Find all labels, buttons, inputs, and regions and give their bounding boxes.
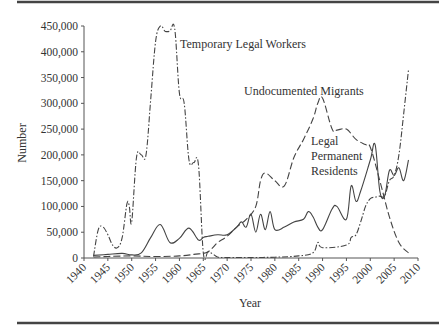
x-tick-label: 1985 [278, 261, 303, 286]
x-tick-label: 1995 [326, 261, 351, 286]
x-tick-label: 2000 [350, 261, 375, 286]
y-tick-label: 100,000 [41, 200, 79, 213]
y-tick-label: 150,000 [41, 175, 79, 188]
x-tick-label: 1955 [135, 261, 160, 286]
x-tick-label: 1945 [88, 261, 113, 286]
x-tick-label: 1990 [302, 261, 327, 286]
line-chart: 050,000100,000150,000200,000250,000300,0… [0, 0, 439, 327]
x-tick-label: 1980 [255, 261, 280, 286]
x-axis: 1940194519501955196019651970197519801985… [64, 258, 423, 286]
y-tick-label: 200,000 [41, 149, 79, 162]
x-tick-label: 1965 [183, 261, 208, 286]
annotation-lpr-line1: Legal [311, 134, 339, 148]
x-tick-label: 1950 [111, 261, 136, 286]
annotation-undocumented-migrants: Undocumented Migrants [244, 84, 364, 98]
x-tick-label: 1960 [159, 261, 184, 286]
annotation-temporary-legal-workers: Temporary Legal Workers [180, 37, 306, 51]
y-tick-label: 400,000 [41, 46, 79, 59]
y-tick-label: 250,000 [41, 123, 79, 136]
y-tick-label: 450,000 [41, 20, 79, 33]
annotation-lpr-line3: Residents [311, 164, 358, 178]
y-axis: 050,000100,000150,000200,000250,000300,0… [41, 20, 84, 264]
x-tick-label: 2005 [374, 261, 399, 286]
series-temporary-legal-workers [94, 24, 409, 259]
x-axis-label: Year [239, 296, 261, 310]
annotation-lpr-line2: Permanent [311, 149, 363, 163]
y-tick-label: 300,000 [41, 97, 79, 110]
y-tick-label: 350,000 [41, 72, 79, 85]
y-tick-label: 50,000 [46, 226, 78, 239]
x-tick-label: 1940 [64, 261, 89, 286]
y-axis-label: Number [15, 123, 29, 162]
x-tick-label: 1975 [231, 261, 256, 286]
x-tick-label: 2010 [398, 261, 423, 286]
series-undocumented-migrants [94, 96, 409, 257]
x-tick-label: 1970 [207, 261, 232, 286]
